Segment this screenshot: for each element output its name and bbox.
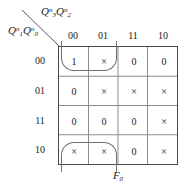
row-header-3: 10: [27, 144, 53, 155]
header-diagonal-divider: [22, 10, 60, 47]
kmap-grid: 1 × 0 0 0 × × × 0 0 0 × × × 0 ×: [58, 46, 178, 165]
cell-r1-c1: ×: [89, 77, 119, 107]
cell-r2-c0: 0: [59, 107, 89, 137]
cell-r3-c3: ×: [149, 136, 179, 166]
row-header-1: 01: [27, 85, 53, 96]
column-header-0: 00: [58, 30, 88, 41]
cell-r3-c2: 0: [119, 136, 149, 166]
cell-r0-c3: 0: [149, 47, 179, 77]
column-header-1: 01: [88, 30, 118, 41]
cell-r2-c1: 0: [89, 107, 119, 137]
cell-r2-c2: 0: [119, 107, 149, 137]
cell-r1-c0: 0: [59, 77, 89, 107]
column-header-2: 11: [118, 30, 148, 41]
function-subscript: 0: [120, 175, 124, 183]
cell-r0-c2: 0: [119, 47, 149, 77]
karnaugh-map-figure: Qn3Qn2 Qn1Qn0 00 01 11 10 00 01 11 10 1 …: [0, 0, 186, 190]
function-name: F: [113, 169, 120, 181]
function-label: F0: [58, 169, 178, 183]
cell-r0-c1: ×: [89, 47, 119, 77]
column-header-3: 10: [148, 30, 178, 41]
cell-r3-c1: ×: [89, 136, 119, 166]
row-var-1: Qn1: [8, 24, 23, 36]
cell-r0-c0: 1: [59, 47, 89, 77]
cell-r3-c0: ×: [59, 136, 89, 166]
cell-r1-c2: ×: [119, 77, 149, 107]
row-header-0: 00: [27, 55, 53, 66]
cell-r1-c3: ×: [149, 77, 179, 107]
cell-r2-c3: ×: [149, 107, 179, 137]
row-header-2: 11: [27, 115, 53, 126]
